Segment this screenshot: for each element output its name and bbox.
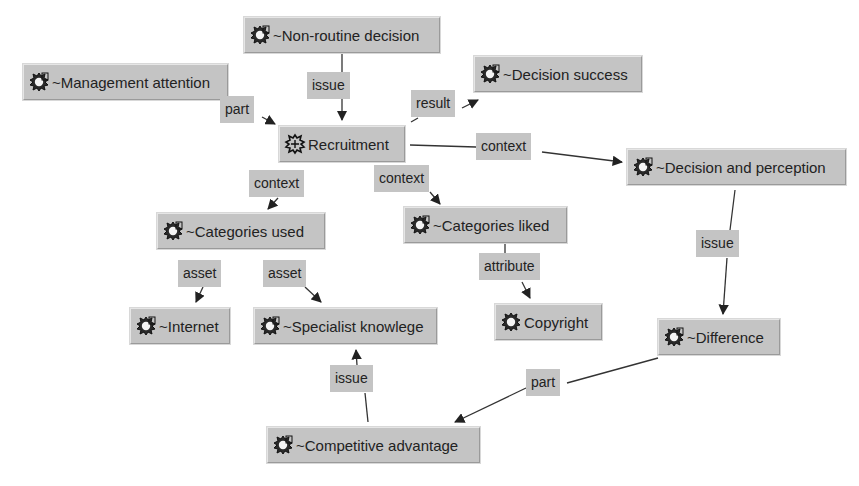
association-label-context[interactable]: context: [249, 170, 304, 197]
hollow-topic-icon: [409, 214, 431, 236]
edge-line: [522, 282, 530, 298]
edge-line: [356, 350, 357, 365]
edge-line: [305, 287, 321, 302]
occurrence-icon: [500, 311, 522, 333]
edge-line: [723, 258, 727, 314]
topic-node-label: ~Categories liked: [433, 217, 549, 234]
edge-line: [455, 388, 526, 422]
topic-node-categories-used[interactable]: ~Categories used: [157, 213, 325, 249]
topic-node-non-routine-decision[interactable]: ~Non-routine decision: [244, 17, 440, 53]
topic-node-specialist-knowlege[interactable]: ~Specialist knowlege: [254, 308, 437, 344]
edge-line: [268, 198, 278, 209]
topic-node-internet[interactable]: ~Internet: [130, 308, 230, 344]
topic-icon: [284, 133, 306, 155]
association-label-context[interactable]: context: [374, 165, 429, 192]
topic-node-label: ~Non-routine decision: [273, 27, 419, 44]
edge-line: [365, 393, 368, 422]
topic-node-label: ~Categories used: [186, 223, 304, 240]
hollow-topic-icon: [162, 220, 184, 242]
topic-node-label: ~Decision and perception: [656, 159, 826, 176]
edge-line: [262, 117, 275, 124]
topic-node-label: ~Competitive advantage: [296, 437, 458, 454]
topic-node-label: ~Difference: [687, 329, 764, 346]
topic-node-difference[interactable]: ~Difference: [658, 319, 780, 355]
association-label-issue[interactable]: issue: [330, 365, 373, 392]
topic-node-copyright[interactable]: Copyright: [495, 304, 602, 340]
topic-node-competitive-advantage[interactable]: ~Competitive advantage: [267, 427, 480, 463]
hollow-topic-icon: [272, 434, 294, 456]
edge-line: [196, 287, 203, 302]
topic-node-label: ~Management attention: [52, 74, 210, 91]
edge-line: [430, 192, 440, 204]
topic-node-management-attention[interactable]: ~Management attention: [23, 64, 228, 100]
association-label-issue[interactable]: issue: [696, 230, 739, 257]
topic-node-label: ~Decision success: [503, 66, 628, 83]
hollow-topic-icon: [663, 326, 685, 348]
edge-line: [410, 145, 476, 147]
association-label-attribute[interactable]: attribute: [479, 253, 540, 280]
association-label-asset[interactable]: asset: [263, 260, 306, 287]
association-label-issue[interactable]: issue: [307, 72, 350, 99]
hollow-topic-icon: [259, 315, 281, 337]
hollow-topic-icon: [28, 71, 50, 93]
hollow-topic-icon: [135, 315, 157, 337]
hollow-topic-icon: [249, 24, 271, 46]
topic-node-recruitment[interactable]: Recruitment: [279, 126, 405, 162]
association-label-result[interactable]: result: [411, 90, 455, 117]
topic-node-label: ~Specialist knowlege: [283, 318, 424, 335]
association-label-part[interactable]: part: [526, 369, 560, 396]
topic-node-label: Recruitment: [308, 136, 389, 153]
edge-line: [730, 190, 735, 230]
hollow-topic-icon: [632, 156, 654, 178]
topic-node-categories-liked[interactable]: ~Categories liked: [404, 207, 567, 243]
edge-line: [542, 152, 622, 162]
edge-line: [462, 100, 478, 108]
topic-node-label: Copyright: [524, 314, 588, 331]
hollow-topic-icon: [479, 63, 501, 85]
topic-node-label: ~Internet: [159, 318, 219, 335]
edge-line: [411, 118, 418, 122]
topic-node-decision-success[interactable]: ~Decision success: [474, 56, 642, 92]
association-label-context[interactable]: context: [476, 133, 531, 160]
association-label-part[interactable]: part: [220, 96, 254, 123]
association-label-asset[interactable]: asset: [178, 260, 221, 287]
topic-node-decision-and-perception[interactable]: ~Decision and perception: [627, 149, 846, 185]
edge-line: [567, 358, 658, 383]
